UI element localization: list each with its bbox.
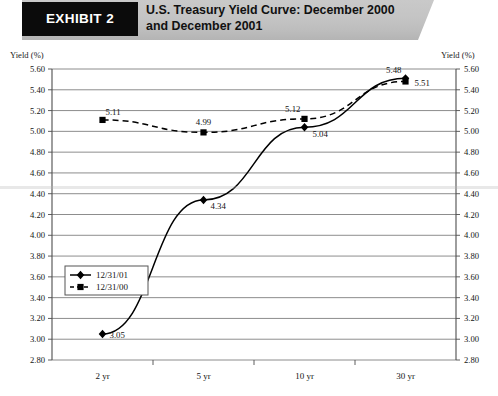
y-tick-label: 2.80 bbox=[30, 355, 45, 365]
x-tick-labels: 2 yr5 yr10 yr30 yr bbox=[95, 371, 415, 381]
diamond-marker bbox=[301, 123, 309, 131]
y-tick-label: 4.20 bbox=[464, 210, 479, 220]
exhibit-tag-label: EXHIBIT 2 bbox=[22, 2, 138, 36]
x-tick-label: 5 yr bbox=[196, 371, 210, 381]
data-point-label: 3.05 bbox=[110, 330, 126, 340]
y-tick-label: 4.20 bbox=[30, 210, 45, 220]
y-tick-label: 5.40 bbox=[30, 85, 45, 95]
y-tick-label: 4.60 bbox=[30, 168, 45, 178]
diamond-marker bbox=[200, 196, 208, 204]
data-point-label: 5.04 bbox=[313, 129, 329, 139]
y-tick-labels-right: 5.605.405.205.004.804.604.404.204.003.80… bbox=[464, 64, 479, 365]
y-tick-label: 4.40 bbox=[30, 189, 45, 199]
square-marker bbox=[402, 78, 408, 84]
square-marker bbox=[200, 129, 206, 135]
y-tick-label: 3.60 bbox=[30, 272, 45, 282]
y-tick-label: 5.60 bbox=[464, 64, 479, 74]
y-tick-label: 5.20 bbox=[464, 106, 479, 116]
y-tick-label: 3.20 bbox=[30, 313, 45, 323]
x-tick-label: 10 yr bbox=[295, 371, 314, 381]
series-line bbox=[103, 81, 406, 132]
square-marker bbox=[301, 116, 307, 122]
data-point-label: 4.34 bbox=[211, 201, 227, 211]
data-point-labels: 3.054.345.045.515.114.995.125.48 bbox=[106, 65, 430, 340]
y-tick-label: 4.00 bbox=[464, 230, 479, 240]
header-band-left-gap bbox=[0, 0, 22, 40]
y-tick-label: 3.00 bbox=[30, 334, 45, 344]
legend-label: 12/31/01 bbox=[96, 270, 128, 280]
y-tick-label: 4.40 bbox=[464, 189, 479, 199]
y-tick-label: 3.40 bbox=[464, 293, 479, 303]
diamond-marker bbox=[99, 330, 107, 338]
square-marker bbox=[99, 117, 105, 123]
y-tick-label: 2.80 bbox=[464, 355, 479, 365]
y-tick-label: 5.00 bbox=[30, 126, 45, 136]
data-point-label: 5.11 bbox=[106, 107, 121, 117]
exhibit-header: EXHIBIT 2 U.S. Treasury Yield Curve: Dec… bbox=[0, 0, 498, 44]
y-tick-label: 5.40 bbox=[464, 85, 479, 95]
y-tick-label: 4.80 bbox=[464, 147, 479, 157]
data-point-label: 4.99 bbox=[196, 117, 212, 127]
y-tick-label: 3.80 bbox=[30, 251, 45, 261]
y-tick-label: 4.00 bbox=[30, 230, 45, 240]
data-point-label: 5.48 bbox=[386, 65, 402, 75]
y-tick-label: 3.60 bbox=[464, 272, 479, 282]
y-tick-label: 4.60 bbox=[464, 168, 479, 178]
yield-curve-chart: Yield (%) Yield (%) 5.605.405.205.004.80… bbox=[0, 44, 498, 396]
chart-legend: 12/31/0112/31/00 bbox=[65, 266, 148, 295]
x-tick-marks-group bbox=[153, 360, 355, 365]
y-tick-labels-left: 5.605.405.205.004.804.604.404.204.003.80… bbox=[30, 64, 45, 365]
x-tick-label: 2 yr bbox=[95, 371, 109, 381]
data-point-label: 5.51 bbox=[415, 78, 430, 88]
y-tick-label: 3.20 bbox=[464, 313, 479, 323]
y-tick-label: 5.60 bbox=[30, 64, 45, 74]
series-line bbox=[103, 78, 406, 334]
data-series-group bbox=[99, 74, 410, 338]
y-tick-label: 5.00 bbox=[464, 126, 479, 136]
x-tick-label: 30 yr bbox=[396, 371, 415, 381]
exhibit-tag-box: EXHIBIT 2 bbox=[22, 2, 138, 36]
y-tick-label: 3.80 bbox=[464, 251, 479, 261]
exhibit-title: U.S. Treasury Yield Curve: December 2000… bbox=[146, 3, 446, 34]
chart-plot-svg: 5.605.405.205.004.804.604.404.204.003.80… bbox=[0, 44, 498, 396]
exhibit-title-line-2: and December 2001 bbox=[146, 19, 446, 35]
y-tick-label: 3.40 bbox=[30, 293, 45, 303]
y-tick-label: 5.20 bbox=[30, 106, 45, 116]
legend-label: 12/31/00 bbox=[96, 282, 129, 292]
y-tick-label: 3.00 bbox=[464, 334, 479, 344]
exhibit-title-line-1: U.S. Treasury Yield Curve: December 2000 bbox=[146, 3, 446, 19]
square-marker bbox=[77, 284, 83, 290]
y-tick-label: 4.80 bbox=[30, 147, 45, 157]
data-point-label: 5.12 bbox=[285, 104, 300, 114]
